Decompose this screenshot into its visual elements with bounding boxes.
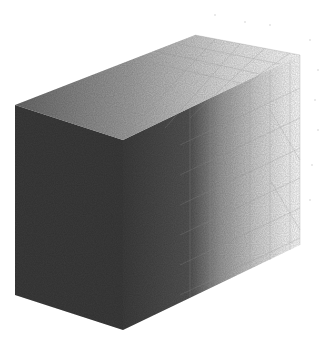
wireframe-box-illustration	[0, 0, 336, 348]
image-stage	[0, 0, 336, 348]
grain-overlay	[15, 35, 300, 330]
